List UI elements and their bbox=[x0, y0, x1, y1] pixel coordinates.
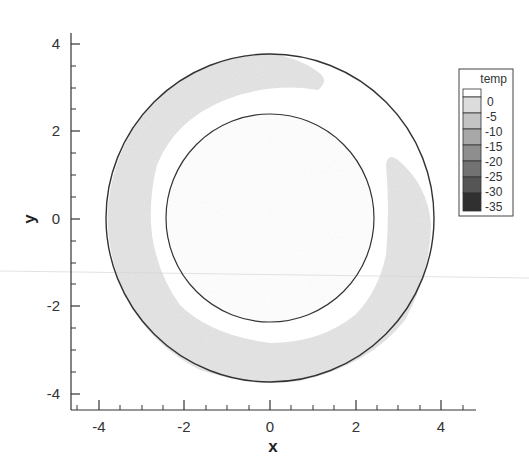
legend-swatch bbox=[463, 97, 481, 113]
x-tick-label: 2 bbox=[352, 418, 360, 435]
legend: temp 0 -5 -10 -15 -20 -25 -30 -35 bbox=[459, 69, 513, 216]
legend-swatch bbox=[463, 89, 481, 97]
legend-swatch bbox=[463, 129, 481, 145]
legend-label: -15 bbox=[485, 140, 503, 154]
x-tick-label: -4 bbox=[92, 418, 105, 435]
legend-label: -10 bbox=[485, 125, 503, 139]
x-axis: -4 -2 0 2 4 x bbox=[71, 400, 476, 456]
legend-label: 0 bbox=[487, 95, 494, 109]
legend-title: temp bbox=[480, 72, 507, 86]
legend-swatch bbox=[463, 177, 481, 193]
y-tick-label: -2 bbox=[47, 297, 60, 314]
inner-disc bbox=[166, 114, 374, 322]
y-tick-label: -4 bbox=[47, 385, 60, 402]
x-axis-title: x bbox=[268, 437, 278, 456]
x-tick-label: -2 bbox=[177, 418, 190, 435]
legend-label: -35 bbox=[485, 200, 503, 214]
legend-swatch bbox=[463, 161, 481, 177]
contour-plot: 4 2 0 -2 -4 y bbox=[0, 0, 529, 465]
contour-band bbox=[108, 53, 431, 383]
legend-label: -5 bbox=[486, 110, 497, 124]
legend-swatch bbox=[463, 193, 481, 211]
x-major-ticks bbox=[99, 400, 441, 410]
legend-swatch bbox=[463, 113, 481, 129]
y-tick-label: 4 bbox=[52, 35, 60, 52]
legend-swatches bbox=[463, 89, 481, 211]
y-major-ticks bbox=[71, 44, 80, 394]
x-tick-label: 0 bbox=[266, 418, 274, 435]
legend-swatch bbox=[463, 145, 481, 161]
y-axis-title: y bbox=[20, 214, 39, 224]
y-axis: 4 2 0 -2 -4 y bbox=[20, 33, 80, 410]
legend-label: -30 bbox=[485, 185, 503, 199]
legend-label: -25 bbox=[485, 170, 503, 184]
legend-label: -20 bbox=[485, 155, 503, 169]
x-tick-label: 4 bbox=[437, 418, 445, 435]
y-tick-label: 0 bbox=[52, 210, 60, 227]
y-tick-label: 2 bbox=[52, 122, 60, 139]
